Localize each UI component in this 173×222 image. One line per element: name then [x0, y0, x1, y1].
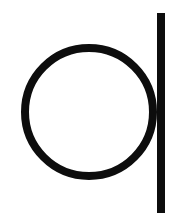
vertical-bar-shape [157, 13, 165, 213]
glyph-canvas [0, 0, 173, 222]
glyph-artwork [0, 0, 173, 222]
